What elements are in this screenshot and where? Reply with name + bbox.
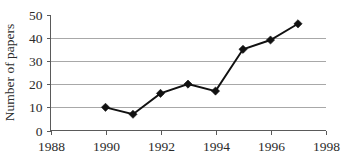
data-point-1993 <box>184 80 192 88</box>
y-tick-label-10: 10 <box>29 100 43 115</box>
x-tick-label-1990: 1990 <box>93 139 120 154</box>
x-tick-label-1994: 1994 <box>203 139 230 154</box>
y-tick-label-40: 40 <box>29 31 43 46</box>
x-tick-label-1988: 1988 <box>38 139 65 154</box>
x-axis-tick-labels: 198819901992199419961998 <box>38 139 340 154</box>
line-chart: 01020304050 198819901992199419961998 Num… <box>0 0 344 166</box>
y-tick-label-50: 50 <box>29 8 43 23</box>
y-tick-label-30: 30 <box>29 54 43 69</box>
y-axis-tick-labels: 01020304050 <box>29 8 43 139</box>
y-axis-title: Number of papers <box>2 24 17 121</box>
gridlines-group <box>51 39 326 108</box>
x-axis-ticks-group <box>52 131 327 135</box>
y-tick-label-0: 0 <box>36 124 43 139</box>
data-point-1990 <box>101 103 109 111</box>
data-series-group <box>101 20 302 119</box>
series-markers-group <box>101 20 302 119</box>
x-tick-label-1996: 1996 <box>258 139 285 154</box>
x-tick-label-1992: 1992 <box>148 139 175 154</box>
data-point-1996 <box>266 36 274 44</box>
data-point-1997 <box>294 20 302 28</box>
x-tick-label-1998: 1998 <box>313 139 340 154</box>
chart-canvas: 01020304050 198819901992199419961998 Num… <box>0 0 344 166</box>
y-axis-ticks-group <box>47 16 51 132</box>
y-tick-label-20: 20 <box>29 77 43 92</box>
